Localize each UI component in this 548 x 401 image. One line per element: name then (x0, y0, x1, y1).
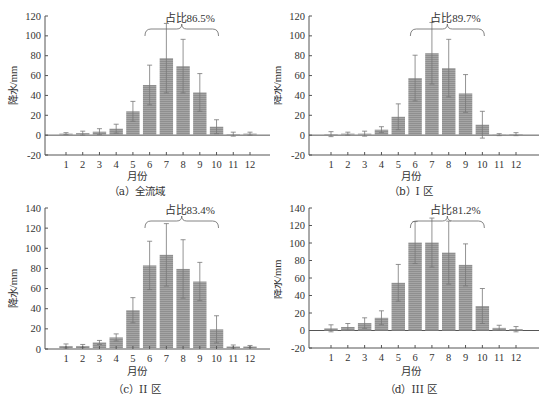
chart-d-svg: -20020406080100120140降水/mm12345678910111… (274, 200, 548, 365)
x-tick-label: 12 (511, 352, 522, 363)
y-axis-label: 降水/mm (274, 66, 283, 105)
y-tick-label: 60 (31, 70, 42, 81)
y-tick-label: 40 (31, 90, 42, 101)
x-tick-label: 1 (328, 352, 333, 363)
y-axis-label: 降水/mm (7, 269, 19, 308)
y-tick-label: 100 (25, 243, 41, 254)
brace-annotation (410, 24, 484, 36)
x-tick-label: 10 (477, 352, 488, 363)
y-tick-label: 80 (295, 50, 306, 61)
y-tick-label: 120 (289, 220, 305, 231)
x-tick-label: 8 (446, 352, 451, 363)
y-tick-label: 20 (31, 323, 42, 334)
chart-panel-c: 020406080100120140降水/mm123456789101112占比… (0, 200, 274, 365)
share-annotation-label: 占比83.4% (165, 203, 215, 216)
x-tick-label: 3 (362, 352, 367, 363)
y-tick-label: 120 (25, 11, 41, 22)
x-tick-label: 11 (494, 352, 504, 363)
y-tick-label: 60 (31, 283, 42, 294)
chart-b-svg: -20020406080100120降水/mm123456789101112占比… (274, 0, 548, 170)
chart-d-caption: （d）III 区 (274, 381, 548, 396)
x-tick-label: 6 (412, 352, 417, 363)
y-tick-label: 80 (295, 255, 306, 266)
y-tick-label: 0 (300, 130, 305, 141)
brace-annotation (410, 216, 484, 228)
y-tick-label: -20 (291, 343, 305, 354)
y-axis-label: 降水/mm (7, 66, 19, 105)
x-tick-label: 4 (379, 352, 385, 363)
y-tick-label: 20 (295, 308, 306, 319)
y-tick-label: 80 (31, 263, 42, 274)
y-tick-label: 140 (289, 203, 305, 214)
x-tick-label: 2 (345, 352, 350, 363)
chart-a-caption: （a）全流域 (0, 183, 274, 198)
chart-b-xlabel: 月份 (274, 168, 548, 183)
y-tick-label: 40 (295, 290, 306, 301)
brace-annotation (145, 24, 219, 36)
chart-a-svg: -20020406080100120降水/mm123456789101112占比… (0, 0, 274, 170)
y-tick-label: -20 (27, 150, 41, 161)
chart-panel-a: -20020406080100120降水/mm123456789101112占比… (0, 0, 274, 170)
y-tick-label: 0 (300, 325, 305, 336)
y-tick-label: 80 (31, 50, 42, 61)
y-tick-label: 20 (295, 110, 306, 121)
chart-a-xlabel: 月份 (0, 168, 274, 183)
y-tick-label: 60 (295, 273, 306, 284)
x-tick-label: 9 (463, 352, 468, 363)
y-tick-label: 40 (295, 90, 306, 101)
y-tick-label: 60 (295, 70, 306, 81)
chart-c-svg: 020406080100120140降水/mm123456789101112占比… (0, 200, 274, 365)
y-tick-label: 20 (31, 110, 42, 121)
y-tick-label: 140 (25, 203, 41, 214)
share-annotation-label: 占比89.7% (430, 11, 480, 24)
chart-panel-d: -20020406080100120140降水/mm12345678910111… (274, 200, 548, 365)
chart-c-xlabel: 月份 (0, 363, 274, 378)
y-axis-label: 降水/mm (274, 260, 283, 299)
chart-panel-b: -20020406080100120降水/mm123456789101112占比… (274, 0, 548, 170)
y-tick-label: -20 (291, 150, 305, 161)
share-annotation-label: 占比81.2% (430, 203, 480, 216)
y-tick-label: 100 (25, 30, 41, 41)
chart-c-caption: （c）II 区 (0, 381, 274, 396)
x-tick-label: 5 (396, 352, 401, 363)
y-tick-label: 0 (36, 130, 41, 141)
chart-d-xlabel: 月份 (274, 363, 548, 378)
chart-b-caption: （b）I 区 (274, 183, 548, 198)
y-tick-label: 120 (25, 223, 41, 234)
x-tick-label: 7 (429, 352, 434, 363)
y-tick-label: 40 (31, 303, 42, 314)
y-tick-label: 100 (289, 238, 305, 249)
y-tick-label: 0 (36, 344, 41, 355)
share-annotation-label: 占比86.5% (165, 11, 215, 24)
brace-annotation (145, 216, 219, 228)
y-tick-label: 120 (289, 11, 305, 22)
y-tick-label: 100 (289, 30, 305, 41)
